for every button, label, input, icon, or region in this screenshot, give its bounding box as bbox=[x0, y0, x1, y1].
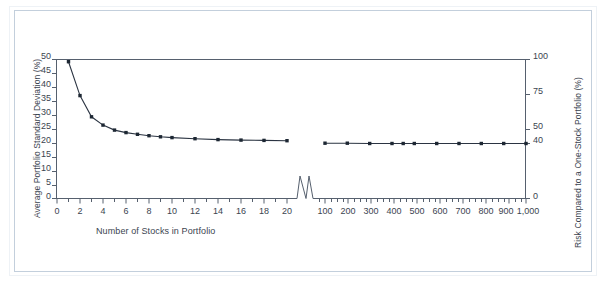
data-point-marker bbox=[170, 136, 173, 139]
chart-canvas: Average Portfolio Standard Deviation (%)… bbox=[0, 0, 606, 284]
data-point-marker bbox=[402, 142, 405, 145]
data-point-marker bbox=[346, 142, 349, 145]
data-point-marker bbox=[368, 142, 371, 145]
data-point-marker bbox=[67, 60, 70, 63]
data-point-marker bbox=[159, 135, 162, 138]
data-point-marker bbox=[502, 142, 505, 145]
y-axis-left-ticks bbox=[52, 60, 56, 199]
series-path bbox=[69, 62, 288, 141]
data-point-marker bbox=[193, 137, 196, 140]
data-point-marker bbox=[480, 142, 483, 145]
axis-break-zigzag bbox=[297, 176, 313, 199]
axis-frame bbox=[56, 59, 526, 199]
data-point-marker bbox=[413, 142, 416, 145]
data-point-marker bbox=[435, 142, 438, 145]
data-point-marker bbox=[323, 142, 326, 145]
data-point-marker bbox=[78, 94, 81, 97]
figure: Average Portfolio Standard Deviation (%)… bbox=[0, 0, 606, 284]
data-point-marker bbox=[216, 138, 219, 141]
x-axis-right-minor-ticks bbox=[320, 199, 522, 202]
data-point-marker bbox=[113, 128, 116, 131]
data-point-marker bbox=[101, 123, 104, 126]
data-point-marker bbox=[262, 139, 265, 142]
x-axis-right-major-ticks bbox=[325, 199, 526, 204]
data-point-marker bbox=[457, 142, 460, 145]
data-point-marker bbox=[524, 142, 527, 145]
data-point-marker bbox=[90, 115, 93, 118]
series-line-large-portfolios bbox=[323, 142, 527, 146]
series-line-small-portfolios bbox=[67, 60, 289, 142]
data-point-marker bbox=[147, 134, 150, 137]
plot-svg bbox=[0, 0, 606, 284]
data-point-marker bbox=[285, 139, 288, 142]
data-point-marker bbox=[390, 142, 393, 145]
data-point-marker bbox=[136, 133, 139, 136]
data-point-marker bbox=[124, 131, 127, 134]
data-point-marker bbox=[239, 138, 242, 141]
